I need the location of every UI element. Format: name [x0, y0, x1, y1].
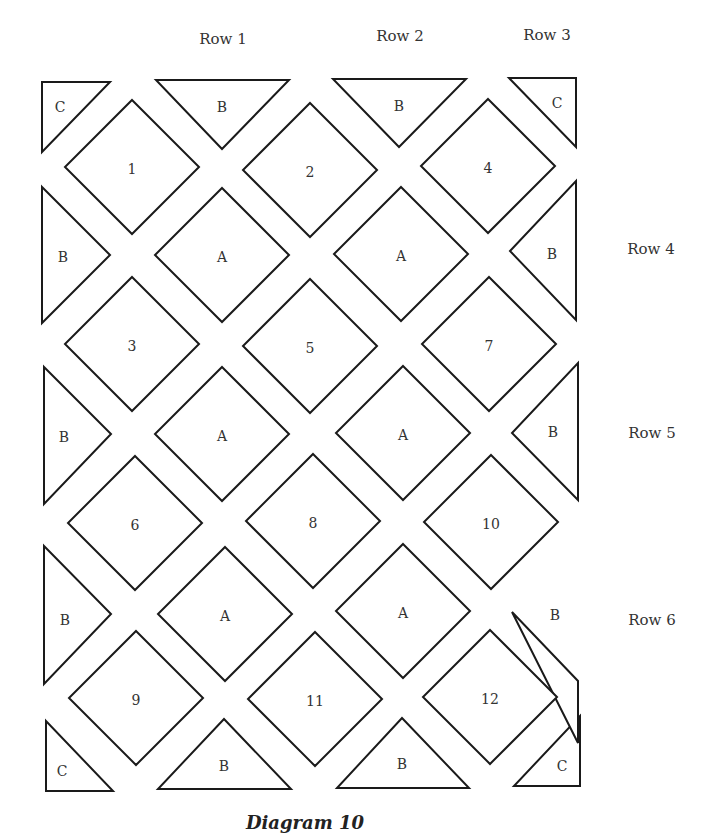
numbered-block-label: 9 [132, 692, 141, 708]
triangle-b-label: B [217, 99, 227, 115]
block-a: A [336, 366, 470, 500]
numbered-block-label: 10 [482, 516, 500, 532]
triangle-b-shape [42, 187, 110, 323]
triangle-b: B [337, 718, 469, 788]
numbered-block: 6 [68, 456, 202, 590]
triangle-b-label: B [550, 607, 560, 623]
triangle-b: B [333, 79, 466, 147]
triangle-b-shape [44, 367, 111, 504]
row-label: Row 5 [628, 424, 675, 442]
triangle-b-label: B [548, 424, 558, 440]
triangle-b: B [42, 187, 110, 323]
triangle-b-shape [337, 718, 469, 788]
quilt-layout-diagram: Row 1Row 2Row 3Row 4Row 5Row 6 CCCC BBBB… [0, 0, 701, 838]
block-a: A [336, 544, 470, 678]
triangle-b: B [44, 546, 111, 684]
row-label: Row 6 [628, 611, 675, 629]
block-a: A [158, 547, 292, 681]
numbered-block-label: 6 [131, 517, 140, 533]
triangle-b-label: B [397, 756, 407, 772]
block-a-label: A [395, 248, 407, 264]
triangle-b-shape [44, 546, 111, 684]
numbered-block-label: 1 [128, 161, 137, 177]
numbered-block: 10 [424, 455, 558, 589]
triangle-b-label: B [58, 249, 68, 265]
numbered-blocks: 124357681091112 [65, 99, 558, 766]
triangle-b-shape [158, 719, 291, 789]
triangle-b: B [512, 363, 578, 500]
triangle-b: B [156, 80, 289, 149]
numbered-block-label: 3 [128, 338, 137, 354]
numbered-block: 3 [65, 277, 199, 411]
triangle-b-label: B [219, 758, 229, 774]
row-label: Row 2 [376, 27, 423, 45]
block-a-label: A [216, 249, 228, 265]
numbered-block-label: 5 [306, 340, 315, 356]
numbered-block-label: 8 [309, 515, 318, 531]
numbered-block-label: 2 [306, 164, 315, 180]
numbered-block: 8 [246, 454, 380, 588]
numbered-block-label: 12 [481, 691, 499, 707]
block-a: A [155, 367, 289, 501]
triangle-b: B [44, 367, 111, 504]
block-a-label: A [219, 608, 231, 624]
triangle-b-label: B [547, 246, 557, 262]
triangle-c-label: C [557, 758, 568, 774]
numbered-block: 9 [69, 631, 203, 765]
row-label: Row 1 [199, 30, 246, 48]
numbered-block: 7 [422, 277, 556, 411]
row-label: Row 4 [627, 240, 674, 258]
setting-blocks-a: AAAAAA [155, 187, 470, 681]
numbered-block: 11 [248, 632, 382, 766]
numbered-block: 5 [243, 279, 377, 413]
numbered-block: 1 [65, 100, 199, 234]
triangle-c-label: C [55, 99, 66, 115]
numbered-block-label: 4 [484, 160, 493, 176]
block-a: A [334, 187, 468, 321]
block-a-label: A [397, 605, 409, 621]
triangle-c-label: C [552, 95, 563, 111]
numbered-block-label: 11 [306, 693, 324, 709]
diagram-caption: Diagram 10 [245, 812, 365, 833]
triangle-b-label: B [59, 429, 69, 445]
numbered-block: 4 [421, 99, 555, 233]
triangle-b: B [158, 719, 291, 789]
row-label: Row 3 [523, 26, 570, 44]
triangle-b-label: B [60, 612, 70, 628]
triangle-b-label: B [394, 98, 404, 114]
block-a-label: A [216, 428, 228, 444]
numbered-block: 2 [243, 103, 377, 237]
numbered-block-label: 7 [485, 338, 494, 354]
triangle-c-label: C [57, 763, 68, 779]
triangle-b-shape [512, 363, 578, 500]
block-a-label: A [397, 427, 409, 443]
block-a: A [155, 188, 289, 322]
